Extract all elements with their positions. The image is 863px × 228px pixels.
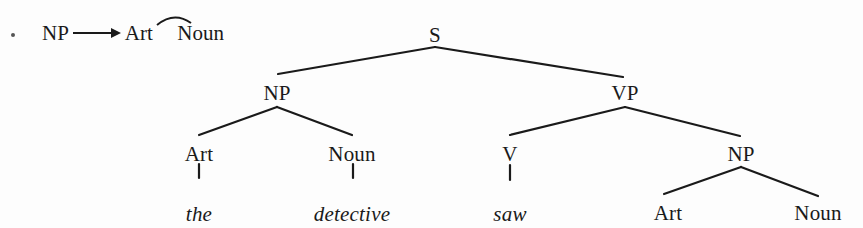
edge-vp-np bbox=[625, 107, 740, 136]
edge-vp-v bbox=[510, 107, 625, 135]
syntax-tree-diagram: NP Art Noun S NP VP Art Noun V NP Art No… bbox=[0, 0, 863, 228]
node-vp: VP bbox=[611, 83, 638, 104]
edge-np-noun bbox=[277, 107, 352, 135]
word-detective: detective bbox=[314, 204, 390, 225]
edge-np-art bbox=[199, 107, 277, 135]
node-noun: Noun bbox=[328, 144, 375, 165]
node-art: Art bbox=[185, 144, 214, 165]
right-arrow-icon bbox=[71, 23, 123, 43]
node-s: S bbox=[429, 25, 441, 46]
rule-rhs: Art Noun bbox=[125, 23, 224, 44]
edge-np2-noun bbox=[741, 167, 818, 196]
edge-np2-art bbox=[664, 167, 741, 194]
edge-s-vp bbox=[435, 47, 623, 77]
rule-rhs-art: Art bbox=[125, 23, 153, 44]
node-np: NP bbox=[263, 83, 290, 104]
node-art-object: Art bbox=[654, 203, 683, 224]
bullet-point bbox=[11, 33, 15, 37]
node-noun-object: Noun bbox=[794, 203, 841, 224]
word-the: the bbox=[186, 204, 212, 225]
rule-lhs: NP bbox=[42, 23, 69, 44]
node-v: V bbox=[502, 144, 517, 165]
node-np-object: NP bbox=[727, 144, 754, 165]
word-saw: saw bbox=[493, 204, 526, 225]
edge-s-np bbox=[278, 47, 435, 74]
concatenation-tie-icon bbox=[155, 13, 193, 27]
phrase-structure-rule: NP Art Noun bbox=[42, 23, 224, 44]
